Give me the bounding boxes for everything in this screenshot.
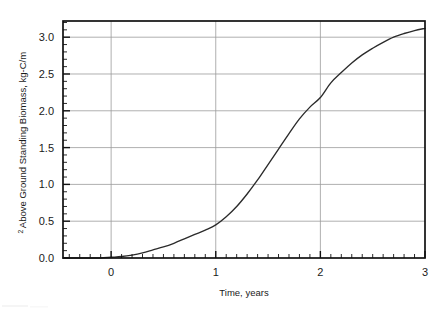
x-tick-label: 1 [213, 266, 219, 278]
x-axis-title: Time, years [219, 287, 269, 298]
x-tick-label: 2 [317, 266, 323, 278]
y-axis-title: Above Ground Standing Biomass, kg-C/m [17, 52, 28, 228]
chart-background [0, 0, 442, 315]
x-tick-label: 0 [108, 266, 114, 278]
biomass-growth-chart: 0123 0.00.51.01.52.02.53.0 Time, years A… [0, 0, 442, 315]
y-axis-title-superscript: 2 [17, 230, 24, 234]
y-tick-label: 2.0 [39, 105, 54, 117]
y-tick-label: 1.0 [39, 178, 54, 190]
x-tick-label: 3 [422, 266, 428, 278]
y-tick-label: 1.5 [39, 142, 54, 154]
chart-svg: 0123 0.00.51.01.52.02.53.0 Time, years A… [0, 0, 442, 315]
y-tick-label: 0.5 [39, 215, 54, 227]
y-axis-title-group: Above Ground Standing Biomass, kg-C/m 2 [17, 52, 29, 234]
y-tick-label: 2.5 [39, 68, 54, 80]
y-tick-label: 0.0 [39, 252, 54, 264]
y-tick-label: 3.0 [39, 31, 54, 43]
